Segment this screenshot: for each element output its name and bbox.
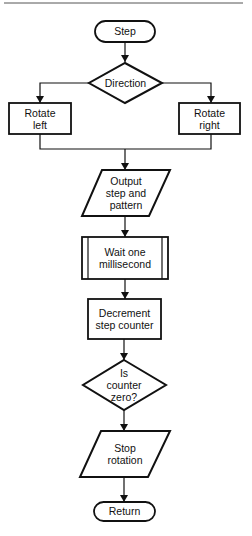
decrement-label: Decrement step counter xyxy=(88,307,161,331)
connector-direction-rotate-left xyxy=(40,83,89,103)
rotate-left-label: Rotate left xyxy=(9,107,71,131)
arrowhead-icon xyxy=(121,230,129,237)
stop-label: Stop rotation xyxy=(90,442,160,466)
arrowhead-icon xyxy=(207,96,215,103)
output-label: Output step and pattern xyxy=(90,175,162,211)
arrowhead-icon xyxy=(120,495,128,502)
wait-label: Wait one millisecond xyxy=(88,246,162,270)
arrowhead-icon xyxy=(121,163,129,170)
connector-direction-rotate-right xyxy=(162,83,211,103)
arrowhead-icon xyxy=(121,292,129,299)
is-zero-label: Is counter zero? xyxy=(94,367,154,403)
return-label: Return xyxy=(94,505,155,517)
arrowhead-icon xyxy=(36,96,44,103)
arrowhead-icon xyxy=(120,424,128,431)
connector-rotate-left-merge xyxy=(40,134,211,149)
step-label: Step xyxy=(95,25,155,37)
direction-label: Direction xyxy=(89,77,162,89)
rotate-right-label: Rotate right xyxy=(179,107,240,131)
arrowhead-icon xyxy=(121,55,129,62)
